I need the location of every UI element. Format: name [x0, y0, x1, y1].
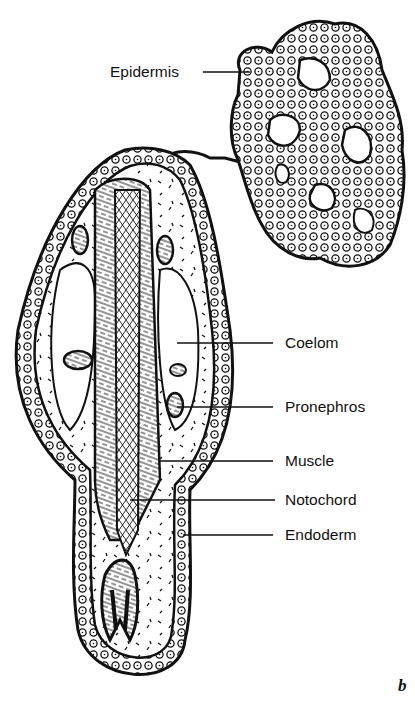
embryo-cross-section-figure: Epidermis Coelom Pronephros Muscle Notoc… — [0, 0, 415, 704]
embryo-drawing — [0, 0, 415, 704]
panel-letter: b — [398, 676, 407, 696]
label-endoderm: Endoderm — [285, 527, 357, 543]
label-epidermis: Epidermis — [110, 64, 179, 80]
label-muscle: Muscle — [285, 453, 334, 469]
label-pronephros: Pronephros — [285, 399, 365, 415]
epidermis-mass — [231, 21, 404, 266]
label-notochord: Notochord — [285, 492, 357, 508]
pronephros-left — [64, 351, 92, 369]
label-coelom: Coelom — [285, 335, 338, 351]
pronephros-right — [167, 393, 183, 417]
embryo-body — [16, 148, 232, 674]
